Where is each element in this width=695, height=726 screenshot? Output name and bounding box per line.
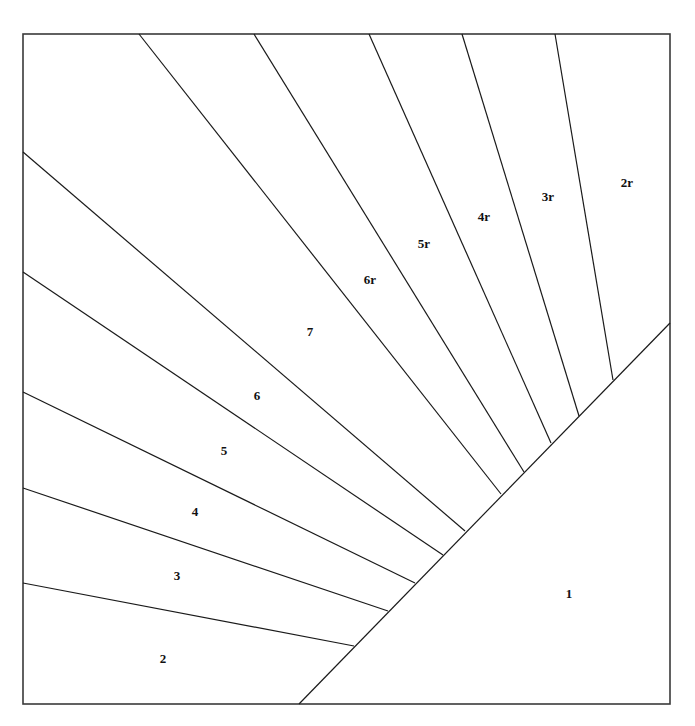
piece-label-6r: 6r: [364, 272, 377, 287]
piece-label-5r: 5r: [418, 236, 431, 251]
piecing-diagram: 1 2 3 4 5 6 7 6r 5r 4r 3r 2r: [0, 0, 695, 726]
piece-label-2r: 2r: [621, 175, 634, 190]
piece-label-7: 7: [307, 324, 314, 339]
piece-label-2: 2: [160, 651, 167, 666]
piece-label-4: 4: [192, 504, 199, 519]
block-frame: [23, 34, 670, 704]
piece-label-4r: 4r: [478, 209, 491, 224]
piece-label-1: 1: [566, 586, 573, 601]
piece-label-6: 6: [254, 388, 261, 403]
piece-label-3: 3: [174, 568, 181, 583]
piece-label-5: 5: [221, 443, 228, 458]
piece-label-3r: 3r: [542, 189, 555, 204]
